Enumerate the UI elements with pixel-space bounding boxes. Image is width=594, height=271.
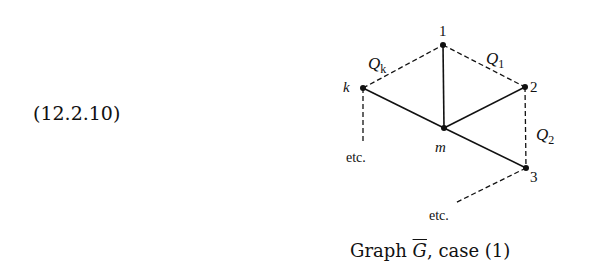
edge-3-etc	[455, 168, 526, 203]
edge-1-2-q1	[443, 45, 525, 87]
graph-diagram: 1 2 3 k m Qk Q1 Q2 etc. etc.	[0, 0, 594, 271]
edge-k-m	[363, 88, 444, 128]
edge-1-m	[443, 45, 444, 128]
node-3	[523, 165, 529, 171]
edge-label-qk: Qk	[368, 54, 386, 76]
caption-symbol: G	[413, 240, 427, 261]
node-2	[522, 84, 528, 90]
node-label-1: 1	[439, 23, 447, 39]
node-label-3: 3	[530, 169, 538, 185]
node-label-k: k	[343, 79, 350, 95]
node-1	[440, 42, 446, 48]
node-k	[360, 85, 366, 91]
edge-m-2	[444, 87, 525, 128]
caption-suffix: , case (1)	[427, 240, 510, 261]
etc-label-left: etc.	[346, 150, 366, 165]
edge-m-3	[444, 128, 526, 168]
node-m	[441, 125, 447, 131]
node-label-2: 2	[530, 79, 538, 95]
caption-prefix: Graph	[350, 240, 413, 261]
edge-label-q2: Q2	[536, 125, 554, 147]
edge-label-q1: Q1	[486, 49, 504, 71]
node-label-m: m	[435, 139, 446, 155]
figure-caption: Graph G, case (1)	[350, 240, 510, 261]
edge-2-3-q2	[525, 87, 526, 168]
etc-label-bottom: etc.	[429, 208, 449, 223]
